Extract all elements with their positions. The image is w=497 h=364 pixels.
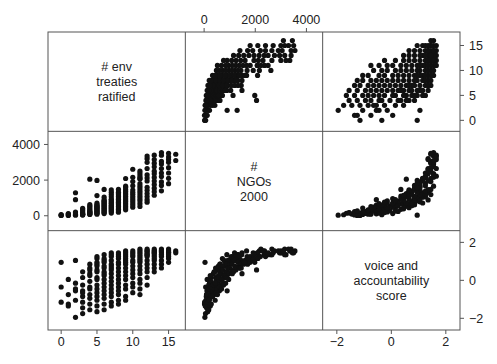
data-point bbox=[379, 118, 384, 123]
data-point bbox=[159, 183, 164, 188]
data-point bbox=[246, 53, 251, 58]
axis-label-top: 2000 bbox=[241, 13, 269, 27]
data-point bbox=[66, 292, 71, 297]
data-point bbox=[212, 269, 217, 274]
data-point bbox=[109, 303, 114, 308]
data-point bbox=[80, 311, 85, 316]
data-point bbox=[406, 78, 411, 83]
data-point bbox=[137, 271, 142, 276]
data-point bbox=[398, 68, 403, 73]
data-point bbox=[428, 78, 433, 83]
data-point bbox=[94, 178, 99, 183]
data-point bbox=[415, 185, 420, 190]
data-point bbox=[258, 63, 263, 68]
data-point bbox=[265, 63, 270, 68]
data-point bbox=[159, 150, 164, 155]
data-point bbox=[59, 284, 64, 289]
data-point bbox=[341, 103, 346, 108]
data-point bbox=[73, 288, 78, 293]
data-point bbox=[116, 301, 121, 306]
data-point bbox=[390, 73, 395, 78]
data-point bbox=[417, 83, 422, 88]
data-point bbox=[281, 248, 286, 253]
data-point bbox=[166, 151, 171, 156]
data-point bbox=[368, 204, 373, 209]
axis-label-bottom-right: 2 bbox=[442, 335, 449, 349]
data-point bbox=[286, 246, 291, 251]
data-point bbox=[145, 175, 150, 180]
data-point bbox=[239, 78, 244, 83]
axis-label-top: 4000 bbox=[293, 13, 321, 27]
data-point bbox=[102, 198, 107, 203]
data-point bbox=[159, 252, 164, 257]
axis-label-bottom-left: 10 bbox=[126, 335, 140, 349]
data-point bbox=[412, 53, 417, 58]
data-point bbox=[393, 58, 398, 63]
data-point bbox=[401, 78, 406, 83]
data-point bbox=[398, 63, 403, 68]
data-point bbox=[366, 73, 371, 78]
data-point bbox=[371, 68, 376, 73]
data-point bbox=[371, 103, 376, 108]
data-point bbox=[366, 93, 371, 98]
data-point bbox=[102, 301, 107, 306]
data-point bbox=[431, 158, 436, 163]
data-point bbox=[80, 290, 85, 295]
data-point bbox=[116, 260, 121, 265]
data-point bbox=[87, 292, 92, 297]
data-point bbox=[123, 176, 128, 181]
data-point bbox=[130, 175, 135, 180]
data-point bbox=[360, 73, 365, 78]
data-point bbox=[159, 166, 164, 171]
data-point bbox=[73, 258, 78, 263]
data-point bbox=[223, 63, 228, 68]
data-point bbox=[116, 281, 121, 286]
data-point bbox=[66, 303, 71, 308]
data-point bbox=[137, 194, 142, 199]
data-point bbox=[382, 93, 387, 98]
data-point bbox=[352, 113, 357, 118]
data-point bbox=[415, 43, 420, 48]
data-point bbox=[116, 191, 121, 196]
data-point bbox=[73, 315, 78, 320]
data-point bbox=[415, 213, 420, 218]
data-point bbox=[94, 254, 99, 259]
panel-treaties-vs-ngos bbox=[202, 38, 298, 123]
data-point bbox=[396, 98, 401, 103]
data-point bbox=[379, 98, 384, 103]
data-point bbox=[73, 209, 78, 214]
data-point bbox=[145, 188, 150, 193]
data-point bbox=[406, 53, 411, 58]
data-point bbox=[173, 152, 178, 157]
data-point bbox=[374, 108, 379, 113]
data-point bbox=[242, 260, 247, 265]
data-point bbox=[59, 260, 64, 265]
axis-label-right-top: 10 bbox=[469, 64, 483, 78]
data-point bbox=[431, 58, 436, 63]
data-point bbox=[390, 88, 395, 93]
axis-label-right-top: 15 bbox=[469, 39, 483, 53]
data-point bbox=[87, 211, 92, 216]
data-point bbox=[152, 175, 157, 180]
data-point bbox=[404, 177, 409, 182]
data-point bbox=[382, 200, 387, 205]
data-point bbox=[102, 187, 107, 192]
data-point bbox=[94, 269, 99, 274]
data-point bbox=[352, 83, 357, 88]
data-point bbox=[236, 53, 241, 58]
data-point bbox=[251, 68, 256, 73]
data-point bbox=[366, 83, 371, 88]
axis-label-right-bottom: −2 bbox=[469, 312, 483, 326]
data-point bbox=[265, 250, 270, 255]
data-point bbox=[398, 187, 403, 192]
data-point bbox=[245, 48, 250, 53]
data-point bbox=[357, 83, 362, 88]
data-point bbox=[208, 83, 213, 88]
data-point bbox=[363, 88, 368, 93]
data-point bbox=[398, 83, 403, 88]
diagonal-label-line: treaties bbox=[96, 75, 137, 89]
axis-label-bottom-right: 0 bbox=[388, 335, 395, 349]
data-point bbox=[130, 260, 135, 265]
data-point bbox=[94, 303, 99, 308]
data-point bbox=[423, 53, 428, 58]
